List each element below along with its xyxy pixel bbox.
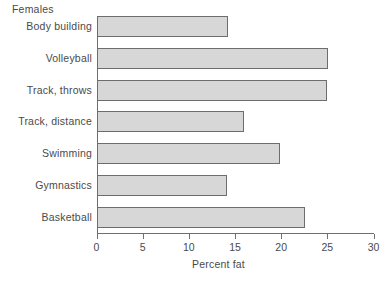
category-label: Swimming: [0, 147, 92, 159]
bar: [97, 80, 328, 101]
x-tick-label: 10: [169, 241, 209, 253]
bar-chart: Females Body buildingVolleyballTrack, th…: [0, 0, 389, 281]
x-tick: [235, 234, 236, 239]
category-label: Body building: [0, 20, 92, 32]
x-axis-title-text: Percent fat: [192, 258, 245, 270]
plot-area: [97, 16, 374, 233]
x-tick: [327, 234, 328, 239]
category-label: Track, distance: [0, 115, 92, 127]
x-tick-label: 25: [307, 241, 347, 253]
x-tick-label: 5: [123, 241, 163, 253]
bar: [97, 111, 245, 132]
x-tick: [143, 234, 144, 239]
category-label: Volleyball: [0, 52, 92, 64]
x-tick-label: 30: [354, 241, 389, 253]
bar: [97, 48, 329, 69]
bar: [97, 175, 227, 196]
bar: [97, 16, 228, 37]
x-tick: [97, 234, 98, 239]
x-tick-label: 0: [77, 241, 117, 253]
x-tick: [189, 234, 190, 239]
category-label: Basketball: [0, 211, 92, 223]
chart-group-caption: Females: [12, 3, 54, 15]
x-axis-title: Percent fat: [0, 258, 389, 270]
bar: [97, 207, 306, 228]
x-tick-label: 15: [215, 241, 255, 253]
category-label: Track, throws: [0, 84, 92, 96]
x-tick: [374, 234, 375, 239]
x-tick-label: 20: [261, 241, 301, 253]
bar: [97, 143, 281, 164]
category-label: Gymnastics: [0, 179, 92, 191]
x-tick: [281, 234, 282, 239]
